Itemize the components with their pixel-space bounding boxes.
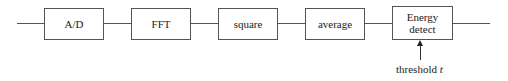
threshold-variable: t [440, 63, 443, 75]
connector-fft-square [191, 23, 218, 24]
block-fft-label: FFT [152, 18, 171, 30]
block-energy-detect: Energy detect [392, 6, 453, 40]
threshold-label: threshold t [396, 63, 443, 75]
connector-average-energy [365, 23, 392, 24]
block-ad-label: A/D [65, 18, 84, 30]
connector-ad-fft [104, 23, 131, 24]
output-line [453, 23, 490, 24]
block-average: average [305, 8, 365, 40]
block-square-label: square [234, 18, 263, 30]
block-ad: A/D [44, 8, 104, 40]
block-average-label: average [318, 18, 352, 30]
input-line [17, 23, 44, 24]
threshold-text: threshold [396, 63, 437, 75]
block-square: square [218, 8, 278, 40]
threshold-arrow-shaft [420, 45, 421, 60]
block-energy-label-line1: Energy [407, 11, 439, 23]
block-energy-label-line2: detect [409, 23, 435, 35]
connector-square-average [278, 23, 305, 24]
block-fft: FFT [131, 8, 191, 40]
